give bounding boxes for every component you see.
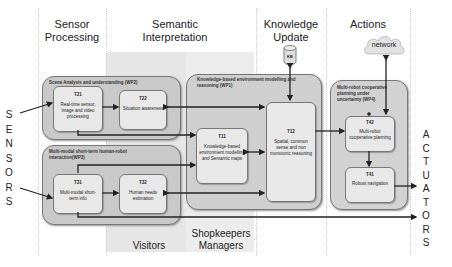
connection-arrows [0,0,452,267]
arrow-sensors-to-t31 [20,188,52,198]
arrow-sensors-to-t21 [20,103,52,113]
arrow-t31-to-actuators [78,212,416,217]
arrow-t31-to-t11 [78,165,195,173]
arrow-t21-to-t11 [78,130,195,135]
connection-dot [367,112,371,116]
